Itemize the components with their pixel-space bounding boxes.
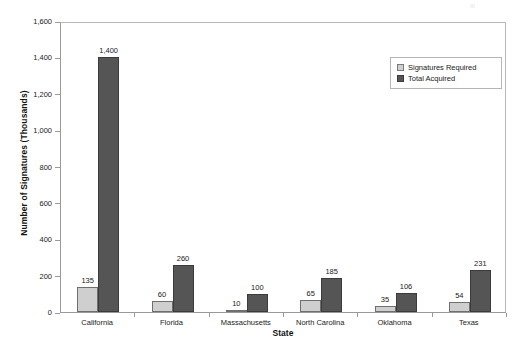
bar — [98, 57, 119, 312]
bar — [152, 301, 173, 312]
legend-label-acquired: Total Acquired — [408, 74, 455, 83]
chart-legend: Signatures Required Total Acquired — [390, 57, 502, 89]
x-axis-tick-mark — [506, 313, 507, 317]
legend-swatch-icon-required — [397, 64, 404, 71]
x-axis-tick-mark — [283, 313, 284, 317]
bar — [77, 287, 98, 312]
legend-item-total-acquired: Total Acquired — [397, 73, 496, 84]
x-axis-tick-mark — [432, 313, 433, 317]
bar-value-label: 106 — [383, 283, 429, 291]
y-axis-tick-label: 1,200 — [14, 91, 52, 99]
y-axis-tick-label: 400 — [14, 236, 52, 244]
y-axis-tick-label: 800 — [14, 164, 52, 172]
bar-value-label: 185 — [309, 268, 355, 276]
bar — [321, 278, 342, 312]
y-axis-tick-label: 1,000 — [14, 127, 52, 135]
x-axis-title: State — [60, 328, 506, 338]
x-axis-tick-mark — [357, 313, 358, 317]
x-axis-category-label: Texas — [419, 318, 519, 327]
bar — [396, 293, 417, 312]
bar-value-label: 260 — [160, 255, 206, 263]
x-axis-tick-mark — [209, 313, 210, 317]
bar — [173, 265, 194, 312]
y-axis-tick-label: 1,400 — [14, 54, 52, 62]
y-axis-tick-label: 1,600 — [14, 18, 52, 26]
bar — [247, 294, 268, 312]
bar — [470, 270, 491, 312]
bar-value-label: 231 — [457, 260, 503, 268]
bar-value-label: 100 — [234, 284, 280, 292]
y-axis-tick-label: 600 — [14, 200, 52, 208]
legend-swatch-icon-acquired — [397, 75, 404, 82]
bar — [300, 300, 321, 312]
scan-artifact — [470, 4, 475, 8]
y-axis-tick-label: 0 — [14, 309, 52, 317]
y-axis-tick-label: 200 — [14, 273, 52, 281]
bar — [449, 302, 470, 312]
x-axis-tick-mark — [134, 313, 135, 317]
legend-item-signatures-required: Signatures Required — [397, 62, 496, 73]
bar-value-label: 1,400 — [86, 47, 132, 55]
bar — [375, 306, 396, 312]
bar — [226, 310, 247, 312]
legend-label-required: Signatures Required — [408, 63, 476, 72]
bar-chart: Number of Signatures (Thousands) State 0… — [0, 0, 523, 348]
